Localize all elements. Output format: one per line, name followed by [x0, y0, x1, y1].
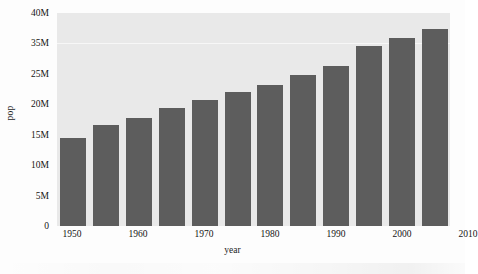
x-axis-tick-label: 1950 [62, 229, 81, 239]
bar [225, 92, 251, 226]
bar [159, 108, 185, 226]
bar [126, 118, 152, 226]
bar [323, 66, 349, 226]
bar [192, 100, 218, 226]
scan-artifact-band [0, 263, 465, 274]
bar [290, 75, 316, 226]
x-axis-tick-label: 1980 [261, 229, 280, 239]
y-axis-tick-label: 10M [31, 160, 49, 170]
y-axis-tick-label: 25M [31, 69, 49, 79]
y-axis-tick-label: 15M [31, 130, 49, 140]
bar [389, 38, 415, 226]
plot-area [57, 13, 450, 226]
x-axis-tick-label: 2000 [393, 229, 412, 239]
bar [356, 46, 382, 226]
x-axis-title: year [0, 245, 465, 255]
x-axis-tick-label: 1970 [194, 229, 213, 239]
bar [93, 125, 119, 226]
y-axis-tick-label: 20M [31, 99, 49, 109]
bar [257, 85, 283, 226]
y-axis-tick-label: 35M [31, 38, 49, 48]
x-axis-tick-label: 1960 [128, 229, 147, 239]
y-axis-tick-label: 40M [31, 8, 49, 18]
y-axis-tick-label: 5M [36, 191, 49, 201]
bar [422, 29, 448, 226]
x-axis-tick-label: 1990 [327, 229, 346, 239]
bar [60, 138, 86, 226]
x-axis-tick-label: 2010 [459, 229, 478, 239]
